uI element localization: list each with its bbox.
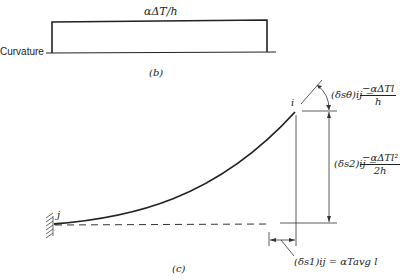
curvature-axis-label: Curvature [0,46,44,57]
axial-leader [281,240,294,256]
deflection-denominator: 2h [372,165,389,177]
caption-b: (b) [149,67,163,78]
deflection-numerator: −αΔTl² [360,152,400,165]
axial-label: (δs1)ij = αTavg l [294,256,377,267]
curvature-value-label: αΔT/h [144,5,178,18]
deflected-beam [54,112,295,224]
node-j-label: j [57,209,60,220]
undeformed-axis [55,224,270,225]
deflection-fraction: −αΔTl² 2h [360,152,400,177]
caption-c: (c) [172,263,185,274]
node-i-label: i [291,97,294,108]
curvature-diagram [46,20,276,53]
rotation-numerator: −αΔTl [360,83,396,96]
rotation-denominator: h [373,96,383,108]
fixed-support [46,213,53,238]
tangent-line [301,80,322,104]
diagram-canvas [0,0,406,280]
rotation-fraction: −αΔTl h [360,83,396,108]
